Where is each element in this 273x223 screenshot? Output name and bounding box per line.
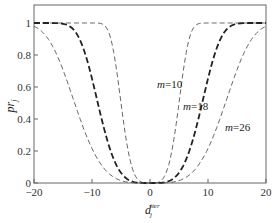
y-axis-ticks: 00.20.40.60.81: [17, 17, 38, 189]
x-tick-label: −10: [83, 186, 101, 198]
curve-m10: [34, 23, 266, 183]
series-label-m26: m=26: [225, 121, 251, 133]
x-axis-ticks: −20−1001020: [25, 179, 272, 198]
x-tick-label: 20: [261, 186, 273, 198]
curve-m18: [34, 23, 266, 183]
y-tick-label: 0.8: [17, 49, 31, 61]
curves: [34, 23, 266, 183]
y-tick-label: 1: [26, 17, 32, 29]
y-axis-label: prj: [3, 99, 19, 114]
x-tick-label: −20: [25, 186, 43, 198]
curve-m26: [34, 26, 266, 183]
y-tick-label: 0.6: [17, 81, 31, 93]
chart: 00.20.40.60.81 −20−1001020 m=10 m=18 m=2…: [0, 0, 273, 223]
series-label-m10: m=10: [157, 78, 183, 90]
x-tick-label: 10: [203, 186, 215, 198]
plot-frame: [34, 5, 266, 183]
series-label-m18: m=18: [183, 100, 209, 112]
x-tick-label: 0: [147, 186, 153, 198]
x-axis-label: djiter: [145, 202, 160, 219]
y-tick-label: 0.4: [17, 113, 31, 125]
y-tick-label: 0.2: [17, 145, 31, 157]
